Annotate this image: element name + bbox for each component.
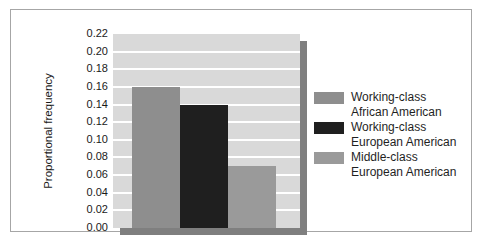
bar-3 (228, 166, 276, 228)
y-axis-title: Proportional frequency (42, 73, 54, 189)
legend-swatch (314, 122, 344, 134)
y-tick-label: 0.12 (61, 115, 108, 128)
bar-2 (180, 105, 228, 228)
legend-swatch (314, 152, 344, 164)
y-tick-label: 0.02 (61, 203, 108, 216)
y-tick-label: 0.18 (61, 62, 108, 75)
y-tick-label: 0.00 (61, 221, 108, 234)
gridline (113, 51, 300, 53)
y-tick-label: 0.16 (61, 80, 108, 93)
legend-label: Middle-classEuropean American (351, 150, 456, 180)
y-tick-label: 0.10 (61, 133, 108, 146)
y-tick-label: 0.14 (61, 98, 108, 111)
gridline (113, 68, 300, 70)
legend-swatch (314, 92, 344, 104)
y-tick-label: 0.20 (61, 45, 108, 58)
legend-entry-2: Working-classEuropean American (314, 120, 479, 150)
figure-canvas: Proportional frequency 0.220.200.180.160… (0, 0, 480, 244)
y-tick-label: 0.08 (61, 150, 108, 163)
legend-entry-3: Middle-classEuropean American (314, 150, 479, 180)
y-tick-label: 0.06 (61, 168, 108, 181)
y-tick-label: 0.22 (61, 27, 108, 40)
legend-label: Working-classAfrican American (351, 90, 442, 120)
y-tick-label: 0.04 (61, 186, 108, 199)
figure-frame: Proportional frequency 0.220.200.180.160… (10, 9, 472, 232)
legend-entry-1: Working-classAfrican American (314, 90, 479, 120)
bar-1 (132, 87, 180, 228)
legend-label: Working-classEuropean American (351, 120, 456, 150)
plot-area (113, 34, 300, 228)
